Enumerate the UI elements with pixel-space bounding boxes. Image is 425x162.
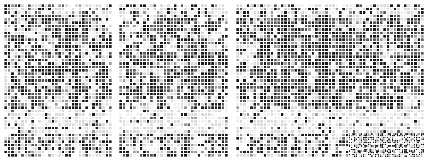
panel-right: [236, 4, 424, 157]
panel-left: [4, 4, 112, 157]
figure-root: [0, 0, 425, 162]
panel-left-canvas: [4, 4, 112, 157]
panel-middle: [119, 4, 228, 157]
panel-middle-canvas: [119, 4, 228, 157]
panel-right-canvas: [236, 4, 424, 157]
